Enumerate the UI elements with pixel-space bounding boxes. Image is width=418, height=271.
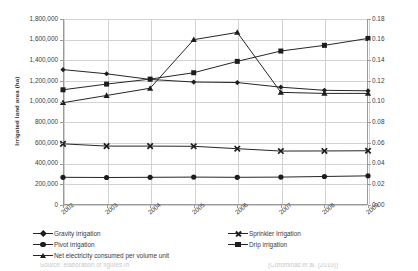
y-tick-label-left: 800,000 — [2, 119, 58, 125]
y-tick-mark-left — [60, 102, 63, 103]
series-marker — [278, 175, 283, 180]
y-tick-label-right: 0.02 — [372, 181, 412, 187]
y-tick-mark-right — [368, 60, 371, 61]
legend-item[interactable]: Drip irrigation — [228, 239, 287, 248]
x-tick-mark — [194, 205, 195, 208]
y-tick-label-left: 0 — [2, 202, 58, 208]
y-tick-mark-left — [60, 143, 63, 144]
y-tick-label-right: 0.08 — [372, 119, 412, 125]
series-marker — [234, 29, 240, 35]
y-tick-mark-right — [368, 81, 371, 82]
y-tick-mark-right — [368, 40, 371, 41]
legend-label: Sprinkler Irrigation — [249, 230, 301, 237]
y-tick-label-right: 0.10 — [372, 98, 412, 104]
y-tick-label-left: 1,800,000 — [2, 16, 58, 22]
y-axis-left-title: Irrigated land area (ha) — [14, 56, 20, 166]
y-tick-mark-left — [60, 60, 63, 61]
x-tick-mark — [324, 205, 325, 208]
series-marker — [60, 175, 65, 180]
series-marker — [148, 175, 153, 180]
y-tick-label-right: 0.06 — [372, 140, 412, 146]
series-marker — [104, 71, 109, 76]
series-marker — [322, 43, 327, 48]
triangle-marker-icon — [33, 251, 53, 260]
series-marker — [61, 87, 66, 92]
y-tick-mark-left — [60, 164, 63, 165]
series-marker — [235, 80, 240, 85]
x-tick-mark — [107, 205, 108, 208]
y-tick-label-left: 1,200,000 — [2, 78, 58, 84]
chart-legend: Gravity irrigationSprinkler IrrigationPi… — [0, 228, 418, 262]
x-tick-mark — [63, 205, 64, 208]
y-tick-mark-right — [368, 164, 371, 165]
y-tick-label-right: 0.16 — [372, 36, 412, 42]
y-tick-mark-right — [368, 19, 371, 20]
series-marker — [60, 67, 65, 72]
y-tick-mark-right — [368, 102, 371, 103]
legend-label: Pivot irrigation — [54, 241, 95, 248]
series-marker — [235, 59, 240, 64]
x-marker-icon — [228, 229, 248, 238]
y-tick-mark-left — [60, 81, 63, 82]
y-tick-label-right: 0.14 — [372, 57, 412, 63]
x-tick-mark — [237, 205, 238, 208]
legend-item[interactable]: Gravity irrigation — [33, 228, 101, 237]
y-tick-mark-left — [60, 184, 63, 185]
series-marker — [365, 173, 370, 178]
y-tick-label-left: 400,000 — [2, 160, 58, 166]
data-series-layer — [63, 19, 368, 205]
y-tick-label-right: 0.18 — [372, 16, 412, 22]
y-tick-label-left: 200,000 — [2, 181, 58, 187]
x-tick-mark — [150, 205, 151, 208]
caption-cutoff: Source: elaboration of figures in (Corom… — [0, 263, 418, 271]
series-marker — [322, 174, 327, 179]
y-tick-label-right: 0.12 — [372, 78, 412, 84]
series-marker — [104, 82, 109, 87]
series-marker — [278, 49, 283, 54]
y-tick-mark-right — [368, 143, 371, 144]
legend-label: Net electricity consumed per volume unit — [54, 252, 169, 259]
legend-item[interactable]: Sprinkler Irrigation — [228, 228, 301, 237]
square-marker-icon — [228, 240, 248, 249]
chart-container: Irrigated land area (ha) Net electricity… — [0, 0, 418, 271]
series-marker — [104, 175, 109, 180]
x-tick-mark — [368, 205, 369, 208]
series-marker — [191, 70, 196, 75]
caption-left: Source: elaboration of figures in — [40, 263, 129, 268]
y-tick-mark-left — [60, 122, 63, 123]
y-tick-mark-left — [60, 40, 63, 41]
diamond-marker-icon — [33, 229, 53, 238]
y-tick-mark-left — [60, 19, 63, 20]
y-tick-label-right: 0.04 — [372, 160, 412, 166]
series-marker — [191, 175, 196, 180]
y-tick-mark-right — [368, 184, 371, 185]
y-tick-mark-right — [368, 122, 371, 123]
y-tick-label-left: 1,000,000 — [2, 98, 58, 104]
series-marker — [148, 77, 153, 82]
caption-right: (Corominas et al. (2010)) — [268, 263, 338, 268]
legend-label: Gravity irrigation — [54, 230, 101, 237]
y-tick-label-left: 600,000 — [2, 140, 58, 146]
legend-label: Drip irrigation — [249, 241, 287, 248]
legend-item[interactable]: Pivot irrigation — [33, 239, 95, 248]
series-marker — [191, 79, 196, 84]
legend-item[interactable]: Net electricity consumed per volume unit — [33, 250, 169, 259]
x-tick-mark — [281, 205, 282, 208]
circle-marker-icon — [33, 240, 53, 249]
y-tick-label-left: 1,400,000 — [2, 57, 58, 63]
series-line — [63, 70, 368, 91]
series-marker — [235, 175, 240, 180]
y-tick-label-left: 1,600,000 — [2, 36, 58, 42]
